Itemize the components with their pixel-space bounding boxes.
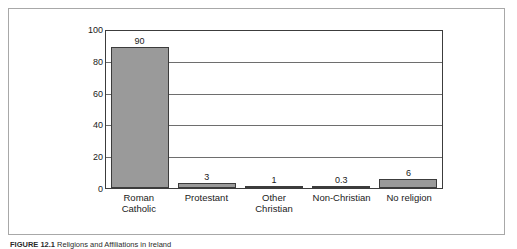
bar-value-label: 3 bbox=[204, 173, 209, 182]
bar-value-label: 6 bbox=[406, 169, 411, 178]
x-category-label-protestant: Protestant bbox=[173, 192, 241, 214]
bar-protestant[interactable]: 3 bbox=[178, 183, 236, 188]
x-category-label-other-christian: Other Christian bbox=[240, 192, 308, 214]
y-tick-label: 20 bbox=[77, 153, 103, 162]
bar-slot: 6 bbox=[375, 31, 442, 188]
y-axis: 100 80 60 40 20 0 bbox=[73, 30, 103, 189]
plot-area: 90 3 1 0.3 bbox=[105, 30, 443, 189]
y-tick-label: 40 bbox=[77, 121, 103, 130]
bar-slot: 90 bbox=[106, 31, 173, 188]
x-category-label-roman-catholic: Roman Catholic bbox=[105, 192, 173, 214]
bar-value-label: 0.3 bbox=[335, 176, 348, 185]
y-tick-label: 80 bbox=[77, 57, 103, 66]
bar-no-religion[interactable]: 6 bbox=[379, 179, 437, 188]
bar-other-christian[interactable]: 1 bbox=[245, 186, 303, 188]
bar-value-label: 90 bbox=[135, 37, 145, 46]
x-category-label-non-christian: Non-Christian bbox=[308, 192, 376, 214]
bar-slot: 3 bbox=[173, 31, 240, 188]
figure-frame: 100 80 60 40 20 0 90 3 bbox=[8, 8, 505, 235]
bar-slot: 0.3 bbox=[308, 31, 375, 188]
bar-non-christian[interactable]: 0.3 bbox=[312, 186, 370, 188]
figure-caption: FIGURE 12.1 Religions and Affiliations i… bbox=[10, 240, 171, 249]
x-category-label-no-religion: No religion bbox=[375, 192, 443, 214]
figure-caption-text: Religions and Affiliations in Ireland bbox=[57, 240, 171, 249]
bar-roman-catholic[interactable]: 90 bbox=[111, 47, 169, 188]
y-tick-label: 0 bbox=[77, 185, 103, 194]
y-tick-label: 60 bbox=[77, 89, 103, 98]
bar-value-label: 1 bbox=[271, 176, 276, 185]
bar-slot: 1 bbox=[240, 31, 307, 188]
bar-chart: 100 80 60 40 20 0 90 3 bbox=[9, 9, 506, 236]
x-axis: Roman Catholic Protestant Other Christia… bbox=[105, 192, 443, 214]
bars-layer: 90 3 1 0.3 bbox=[106, 31, 442, 188]
figure-caption-label: FIGURE 12.1 bbox=[10, 240, 55, 249]
y-tick-label: 100 bbox=[77, 26, 103, 35]
